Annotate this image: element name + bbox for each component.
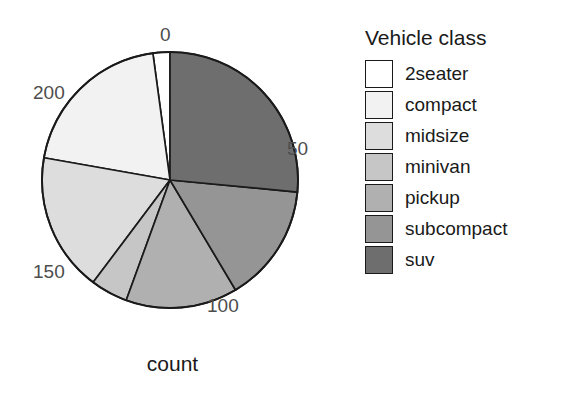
legend-item-midsize[interactable]: midsize [365,120,563,151]
legend: Vehicle class 2seatercompactmidsizeminiv… [365,26,563,275]
legend-item-compact[interactable]: compact [365,89,563,120]
legend-swatch-pickup [365,184,393,212]
legend-item-subcompact[interactable]: subcompact [365,213,563,244]
pie-slice-suv[interactable] [170,52,298,192]
chart-root: 0 50 100 150 200 count Vehicle class 2se… [0,0,563,403]
axis-tick-200: 200 [33,83,65,102]
pie-chart [0,0,345,345]
axis-tick-50: 50 [287,139,308,158]
legend-item-suv[interactable]: suv [365,244,563,275]
legend-swatch-suv [365,246,393,274]
legend-item-pickup[interactable]: pickup [365,182,563,213]
legend-item-minivan[interactable]: minivan [365,151,563,182]
axis-tick-100: 100 [207,296,239,315]
legend-label-minivan: minivan [405,157,470,176]
legend-swatch-compact [365,91,393,119]
axis-title: count [0,352,345,376]
plot-panel: 0 50 100 150 200 count [0,0,345,403]
axis-tick-150: 150 [33,262,65,281]
legend-label-suv: suv [405,250,435,269]
legend-label-subcompact: subcompact [405,219,507,238]
legend-item-2seater[interactable]: 2seater [365,58,563,89]
legend-label-compact: compact [405,95,477,114]
legend-items: 2seatercompactmidsizeminivanpickupsubcom… [365,58,563,275]
legend-title: Vehicle class [365,26,563,50]
legend-swatch-subcompact [365,215,393,243]
legend-label-pickup: pickup [405,188,460,207]
legend-swatch-midsize [365,122,393,150]
legend-swatch-2seater [365,60,393,88]
legend-label-midsize: midsize [405,126,469,145]
axis-tick-0: 0 [160,25,171,44]
legend-swatch-minivan [365,153,393,181]
pie-slice-group [42,52,298,308]
legend-label-2seater: 2seater [405,64,468,83]
